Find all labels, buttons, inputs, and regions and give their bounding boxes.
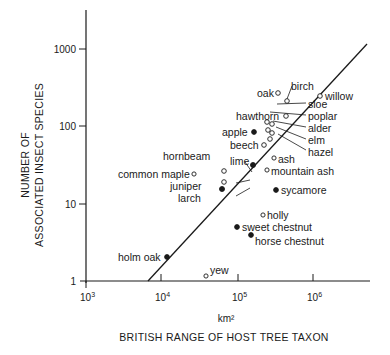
y-tick-label: 1000 (54, 44, 77, 55)
point-larch (220, 187, 225, 192)
label-hornbeam: hornbeam (163, 150, 211, 162)
scatter-chart: 1000 100 10 1 103 104 105 106 km² BRITIS… (0, 0, 390, 355)
label-mountain-ash: mountain ash (271, 165, 334, 177)
label-hawthorn: hawthorn (236, 110, 279, 122)
point-hazel (268, 137, 273, 142)
y-tick-label: 100 (59, 121, 76, 132)
label-oak: oak (257, 87, 275, 99)
label-ash: ash (278, 153, 295, 165)
label-poplar: poplar (308, 110, 338, 122)
label-holm-oak: holm oak (118, 251, 161, 263)
y-ticks: 1000 100 10 1 (54, 44, 86, 287)
point-horse-chestnut (249, 233, 254, 238)
point-beech (262, 143, 267, 148)
label-beech: beech (230, 139, 259, 151)
label-larch: larch (178, 192, 201, 204)
point-birch (285, 99, 290, 104)
x-axis-title: BRITISH RANGE OF HOST TREE TAXON (119, 331, 329, 343)
label-juniper: juniper (169, 180, 202, 192)
point-hawthorn (284, 114, 289, 119)
label-common-maple: common maple (118, 168, 190, 180)
point-holly (261, 213, 265, 217)
x-tick-label: 104 (155, 291, 170, 303)
point-holm-oak (165, 255, 170, 260)
x-axis-unit: km² (218, 313, 235, 324)
point-juniper (222, 180, 227, 185)
point-common-maple (192, 172, 196, 176)
point-alder (266, 128, 271, 133)
label-holly: holly (267, 209, 289, 221)
x-tick-label: 106 (307, 291, 322, 303)
point-mountain-ash (265, 168, 269, 172)
y-tick-label: 10 (65, 199, 77, 210)
y-axis-title-line1: NUMBER OF (19, 132, 31, 198)
x-ticks: 103 104 105 106 (80, 274, 322, 303)
point-sweet-chestnut (235, 225, 240, 230)
point-poplar (270, 122, 275, 127)
y-tick-label: 1 (70, 276, 76, 287)
point-elm (270, 131, 275, 136)
point-oak (276, 91, 281, 96)
point-hornbeam (222, 169, 227, 174)
label-hazel: hazel (308, 146, 333, 158)
x-tick-label: 103 (80, 291, 95, 303)
label-sweet-chestnut: sweet chestnut (242, 221, 312, 233)
point-apple (252, 130, 257, 135)
label-willow: willow (324, 90, 353, 102)
label-lime: lime (230, 155, 249, 167)
label-birch: birch (291, 80, 314, 92)
y-axis-title-line2: ASSOCIATED INSECT SPECIES (33, 83, 45, 247)
label-sloe: sloe (308, 98, 327, 110)
label-sycamore: sycamore (281, 184, 327, 196)
label-elm: elm (308, 134, 325, 146)
point-ash (272, 156, 276, 160)
point-sycamore (274, 188, 279, 193)
point-yew (204, 274, 208, 278)
point-labels: oak birch willow hawthorn sloe poplar al… (118, 80, 353, 276)
label-horse-chestnut: horse chestnut (255, 235, 324, 247)
label-yew: yew (210, 264, 229, 276)
label-alder: alder (308, 122, 332, 134)
x-tick-label: 105 (232, 291, 247, 303)
point-lime (251, 163, 256, 168)
label-apple: apple (222, 126, 248, 138)
